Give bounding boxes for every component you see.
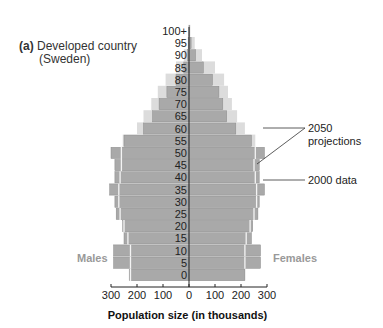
age-label: 15 [175, 232, 187, 244]
bar-female-2000 [189, 221, 253, 232]
bar-female-2000 [189, 74, 212, 85]
age-label: 80 [175, 74, 187, 86]
age-label: 95 [175, 37, 187, 49]
x-tick-label: 300 [258, 289, 276, 301]
age-label: 85 [175, 62, 187, 74]
age-label: 25 [175, 208, 187, 220]
age-label: 65 [175, 110, 187, 122]
age-label: 40 [175, 171, 187, 183]
projections-label-2: projections [308, 135, 362, 147]
females-label: Females [273, 252, 317, 264]
bar-female-2000 [189, 135, 251, 146]
x-tick-label: 100 [206, 289, 224, 301]
age-label: 10 [175, 245, 187, 257]
age-label: 20 [175, 220, 187, 232]
x-axis: 3002001000100200300 [102, 284, 276, 301]
bar-female-2000 [189, 62, 203, 73]
x-tick-label: 100 [154, 289, 172, 301]
x-tick-label: 200 [232, 289, 250, 301]
x-tick-label: 0 [186, 289, 192, 301]
bar-male-2000 [114, 257, 189, 268]
bar-female-2000 [189, 257, 261, 268]
bars-group [110, 25, 265, 281]
bar-female-2000 [189, 86, 219, 97]
age-label: 55 [175, 135, 187, 147]
bar-female-2000 [189, 208, 258, 219]
annotation-projections: 2050 projections [257, 122, 362, 164]
bar-female-2000 [189, 196, 259, 207]
annotation-2000: 2000 data [263, 174, 358, 186]
bar-female-2000 [189, 184, 264, 195]
bar-female-2000 [189, 99, 223, 110]
bar-female-2000 [189, 111, 227, 122]
age-label: 90 [175, 49, 187, 61]
bar-female-2000 [189, 269, 245, 280]
age-label: 30 [175, 196, 187, 208]
age-label: 0 [181, 269, 187, 281]
age-label: 35 [175, 184, 187, 196]
age-label: 100+ [162, 25, 187, 37]
x-axis-label: Population size (in thousands) [0, 309, 383, 321]
data-2000-label: 2000 data [308, 174, 358, 186]
age-label: 5 [181, 257, 187, 269]
bar-female-2000 [189, 123, 236, 134]
age-label: 60 [175, 123, 187, 135]
age-label: 50 [175, 147, 187, 159]
bar-female-2000 [189, 50, 196, 61]
age-label: 45 [175, 159, 187, 171]
bar-female-2000 [189, 147, 264, 158]
population-pyramid: 0510152025303540455055606570758085909510… [0, 0, 383, 328]
x-tick-label: 200 [128, 289, 146, 301]
bar-female-2000 [189, 160, 259, 171]
age-label: 75 [175, 86, 187, 98]
males-label: Males [77, 252, 108, 264]
age-label: 70 [175, 98, 187, 110]
bar-female-2000 [189, 245, 261, 256]
bar-female-2000 [189, 172, 259, 183]
projections-label-1: 2050 [308, 122, 332, 134]
bar-female-2000 [189, 233, 251, 244]
x-tick-label: 300 [102, 289, 120, 301]
